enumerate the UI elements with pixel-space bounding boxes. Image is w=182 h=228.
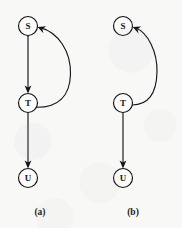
node-a-s[interactable]: S: [19, 17, 38, 36]
state-transition-figure: S T U (a): [0, 0, 182, 228]
node-b-s-label: S: [120, 21, 125, 31]
node-b-t[interactable]: T: [114, 94, 133, 113]
caption-a: (a): [34, 207, 45, 218]
edge-a-t-to-u: [25, 113, 32, 169]
node-b-t-label: T: [120, 98, 126, 108]
node-b-s[interactable]: S: [114, 17, 133, 36]
node-a-t[interactable]: T: [19, 94, 38, 113]
node-a-s-label: S: [25, 21, 30, 31]
edge-b-t-to-u: [120, 113, 127, 169]
node-b-u[interactable]: U: [114, 169, 133, 188]
node-a-u[interactable]: U: [19, 169, 38, 188]
figure-page: S T U (a): [0, 0, 182, 228]
node-b-u-label: U: [120, 173, 127, 183]
edge-b-t-to-s: [131, 26, 157, 105]
caption-b: (b): [127, 207, 139, 218]
edge-a-t-to-s: [36, 26, 70, 107]
node-a-u-label: U: [25, 173, 32, 183]
edge-b-t-to-s-curve: [131, 28, 157, 105]
edge-a-t-to-s-curve: [36, 28, 70, 108]
edge-a-s-to-t: [25, 36, 32, 93]
node-a-t-label: T: [25, 98, 31, 108]
diagram-a: S T U (a): [19, 17, 71, 219]
diagram-b: S T U (b): [114, 17, 158, 219]
